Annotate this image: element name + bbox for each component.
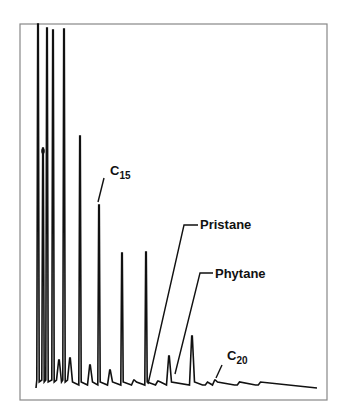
chromatogram-chart: C15PristanePhytaneC20 xyxy=(0,0,343,415)
plot-frame xyxy=(20,24,327,400)
peak-label: Phytane xyxy=(215,266,266,281)
peak-label: C15 xyxy=(110,163,131,181)
chromatogram-trace xyxy=(36,24,317,388)
annotation-leaders xyxy=(98,178,222,384)
peak-marker xyxy=(41,148,45,154)
peak-label: C20 xyxy=(227,348,248,366)
annotation-leader-line xyxy=(216,365,222,378)
annotation-labels: C15PristanePhytaneC20 xyxy=(110,163,266,366)
peak-markers xyxy=(41,148,45,154)
peak-label: Pristane xyxy=(200,217,251,232)
annotation-leader-line xyxy=(98,178,104,202)
